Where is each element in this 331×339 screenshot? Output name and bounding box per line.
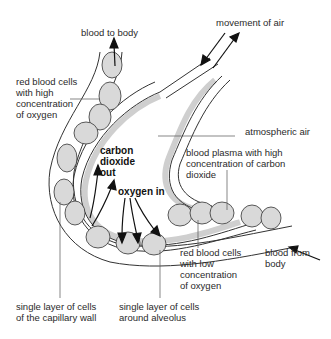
label-alveolus-layer-2: around alveolus <box>119 312 186 323</box>
label-blood-from-body-2: body <box>265 258 286 269</box>
label-plasma-1: blood plasma with high <box>186 147 283 158</box>
label-rbc-low-4: of oxygen <box>180 280 221 291</box>
label-blood-to-body: blood to body <box>81 27 138 38</box>
label-rbc-low-1: red blood cells <box>180 247 241 258</box>
label-rbc-high-2: with high <box>16 87 54 98</box>
label-co2-3: out <box>100 167 116 178</box>
label-atmospheric-air: atmospheric air <box>245 126 310 137</box>
label-co2-1: carbon <box>100 145 133 156</box>
label-capillary-wall-1: single layer of cells <box>16 301 96 312</box>
label-capillary-wall-2: of the capillary wall <box>16 312 96 323</box>
label-rbc-high-4: of oxygen <box>16 109 57 120</box>
label-rbc-high-3: concentration <box>16 98 73 109</box>
label-plasma-2: concentration of carbon <box>186 158 285 169</box>
label-rbc-low-2: with low <box>180 258 214 269</box>
label-rbc-low-3: concentration <box>180 269 237 280</box>
label-rbc-high-1: red blood cells <box>16 76 77 87</box>
label-co2-2: dioxide <box>100 156 135 167</box>
label-movement-of-air: movement of air <box>216 17 284 28</box>
label-oxygen-in: oxygen in <box>118 186 165 197</box>
label-blood-from-body-1: blood from <box>265 247 310 258</box>
label-plasma-3: dioxide <box>186 169 216 180</box>
label-alveolus-layer-1: single layer of cells <box>119 301 199 312</box>
alveolus-capillary-diagram <box>0 0 331 339</box>
